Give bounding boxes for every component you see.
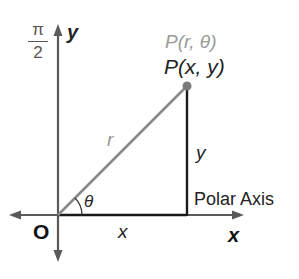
origin-label: O: [33, 221, 49, 242]
radius-label: r: [107, 130, 113, 149]
polar-coordinates-label: P(r, θ): [165, 32, 216, 51]
vertical-leg-label: y: [196, 143, 206, 162]
pi-numerator: π: [27, 20, 49, 40]
up-arrow-icon: [54, 24, 63, 36]
point-p: [183, 82, 192, 91]
fraction-bar: [28, 41, 48, 42]
left-arrow-icon: [9, 211, 21, 220]
pi-denominator: 2: [27, 43, 49, 63]
y-axis-label: y: [67, 22, 78, 42]
down-arrow-icon: [54, 250, 63, 262]
horizontal-leg-label: x: [118, 222, 128, 241]
x-axis-label: x: [228, 225, 239, 245]
angle-theta-label: θ: [84, 193, 93, 210]
right-arrow-icon: [232, 211, 244, 220]
radius-segment: [58, 86, 187, 215]
rectangular-coordinates-label: P(x, y): [164, 56, 225, 77]
angle-arc: [75, 198, 82, 215]
pi-over-2-label: π 2: [27, 20, 49, 63]
polar-axis-label: Polar Axis: [194, 190, 274, 208]
